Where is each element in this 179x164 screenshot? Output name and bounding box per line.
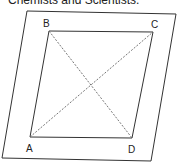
label-c: C — [151, 19, 158, 30]
diagonal-ac — [30, 32, 153, 137]
label-a: A — [26, 143, 33, 154]
label-d: D — [128, 144, 135, 155]
label-b: B — [43, 18, 50, 29]
outer-plane — [2, 11, 176, 161]
diagonal-bd — [49, 31, 132, 138]
parallelogram-square-diagram: B C A D — [0, 0, 179, 164]
